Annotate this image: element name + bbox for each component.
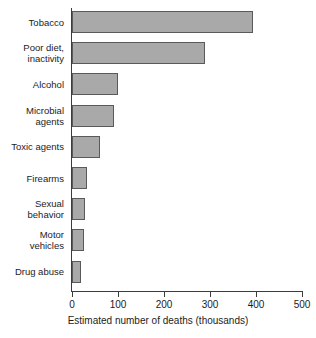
bar	[72, 73, 118, 95]
bar	[72, 136, 100, 158]
x-tick	[302, 292, 303, 297]
x-tick-label: 0	[52, 299, 92, 311]
bar	[72, 167, 87, 189]
category-label: Alcohol	[0, 79, 64, 90]
bar	[72, 11, 253, 33]
bar	[72, 261, 81, 283]
x-tick-label: 400	[236, 299, 276, 311]
x-axis-title: Estimated number of deaths (thousands)	[0, 315, 316, 326]
x-tick-label: 200	[144, 299, 184, 311]
x-axis-line	[71, 291, 303, 292]
category-label: Tobacco	[0, 17, 64, 28]
category-label: Toxic agents	[0, 141, 64, 152]
x-tick	[72, 292, 73, 297]
x-tick	[164, 292, 165, 297]
x-tick-label: 300	[190, 299, 230, 311]
category-label: Poor diet, inactivity	[0, 42, 64, 64]
category-label: Microbial agents	[0, 105, 64, 127]
x-tick-label: 500	[282, 299, 316, 311]
x-tick	[118, 292, 119, 297]
bar	[72, 42, 205, 64]
category-label: Drug abuse	[0, 266, 64, 277]
category-label: Sexual behavior	[0, 198, 64, 220]
bar	[72, 229, 84, 251]
bar-chart: TobaccoPoor diet, inactivityAlcoholMicro…	[0, 0, 316, 338]
plot-area: 0100200300400500	[72, 8, 302, 290]
category-label: Firearms	[0, 173, 64, 184]
bar	[72, 198, 85, 220]
x-tick	[256, 292, 257, 297]
bar	[72, 105, 114, 127]
x-tick	[210, 292, 211, 297]
x-tick-label: 100	[98, 299, 138, 311]
category-label: Motor vehicles	[0, 229, 64, 251]
